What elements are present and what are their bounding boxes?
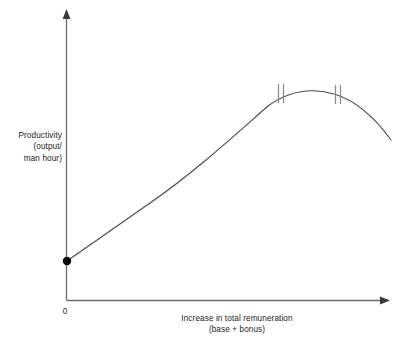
origin-tick-label: 0 (58, 307, 72, 316)
productivity-remuneration-chart: Productivity (output/ man hour) Increase… (0, 0, 402, 351)
y-axis-label: Productivity (output/ man hour) (2, 130, 62, 164)
x-axis-arrowhead-icon (380, 297, 390, 305)
x-axis (67, 297, 391, 305)
x-axis-label: Increase in total remuneration (base + b… (137, 313, 337, 336)
plateau-bound-left-hash-icon (279, 84, 284, 103)
productivity-curve (67, 91, 391, 261)
y-axis (63, 9, 71, 300)
y-axis-arrowhead-icon (63, 9, 71, 19)
chart-canvas (0, 0, 402, 351)
curve-start-point-marker (63, 257, 71, 265)
